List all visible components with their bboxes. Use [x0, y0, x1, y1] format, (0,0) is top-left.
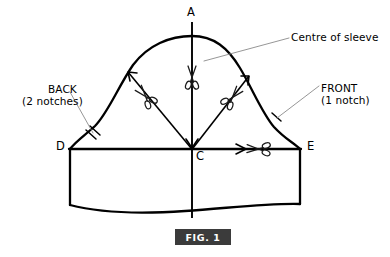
sleeve-hem-curve: [70, 204, 300, 213]
centre-of-sleeve-label: Centre of sleeve: [291, 31, 379, 43]
point-label-a: A: [187, 6, 195, 20]
sleeve-cap-front-curve: [192, 36, 300, 149]
scissors-icon-front-diagonal: [219, 84, 246, 112]
point-label-d: D: [56, 140, 65, 154]
back-diagonal-cut-line: [128, 72, 191, 148]
back-notch-mark-1: [86, 130, 96, 139]
front-label-leader: [277, 86, 319, 118]
front-label-detail: (1 notch): [321, 94, 370, 106]
sleeve-outline-group: [69, 36, 301, 213]
figure-caption-text: FIG. 1: [186, 232, 221, 243]
front-label-title: FRONT: [321, 82, 357, 94]
scissors-icon-back-diagonal: [133, 83, 160, 111]
point-label-c: C: [196, 150, 204, 164]
front-notch-mark: [272, 113, 281, 121]
point-label-e: E: [307, 140, 314, 154]
sleeve-pattern-figure: A C D E Centre of sleeve BACK (2 notches…: [0, 0, 390, 257]
back-label-detail: (2 notches): [22, 95, 83, 107]
notch-marks-group: [86, 113, 281, 139]
figure-caption-box: FIG. 1: [175, 229, 231, 245]
arrowheads-group: [128, 72, 249, 154]
back-label-title: BACK: [48, 83, 77, 95]
front-diagonal-cut-line: [193, 76, 249, 148]
leader-lines-group: [70, 38, 319, 133]
